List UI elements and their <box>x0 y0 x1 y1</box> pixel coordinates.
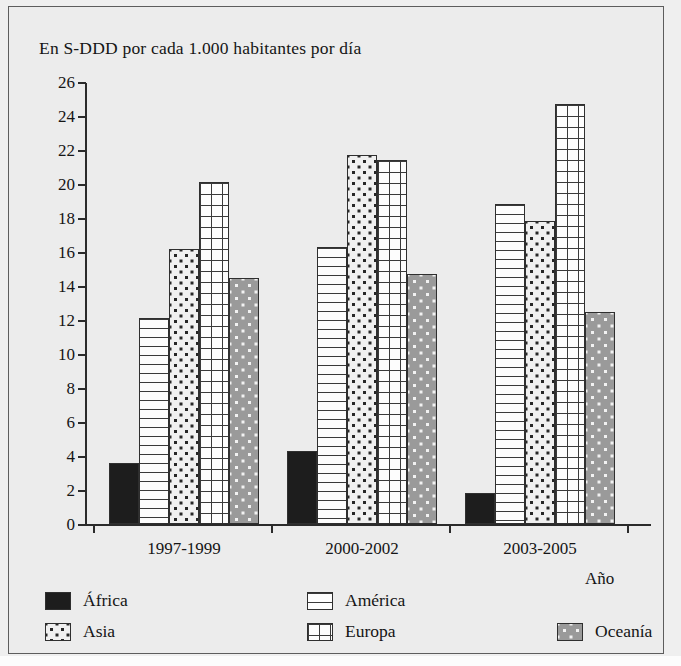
y-axis-tick <box>78 252 86 254</box>
x-axis-group-label: 2000-2002 <box>262 539 462 559</box>
x-axis-group-label: 1997-1999 <box>84 539 284 559</box>
bar-oceana-2003-2005 <box>585 312 615 525</box>
bar-oceana-2000-2002 <box>407 274 437 524</box>
y-axis-tick-label: 20 <box>37 176 75 193</box>
legend-swatch-icon <box>45 592 71 610</box>
x-axis-line <box>85 524 651 526</box>
figure-frame: En S-DDD por cada 1.000 habitantes por d… <box>8 6 664 654</box>
y-axis-tick <box>78 524 86 526</box>
y-axis-tick <box>78 218 86 220</box>
legend-label: Asia <box>83 621 115 642</box>
x-axis-group-label: 2003-2005 <box>440 539 640 559</box>
y-axis-tick <box>78 184 86 186</box>
y-axis-tick-label: 4 <box>37 448 75 465</box>
x-axis-tick <box>93 524 95 533</box>
legend-swatch-icon <box>307 623 333 641</box>
legend-item-oceana[interactable]: Oceanía <box>557 621 652 642</box>
scanned-page-background: En S-DDD por cada 1.000 habitantes por d… <box>0 0 681 666</box>
bar-europa-2000-2002 <box>377 160 407 524</box>
y-axis-tick-label: 26 <box>37 74 75 91</box>
y-axis-tick-label: 16 <box>37 244 75 261</box>
y-axis-tick <box>78 150 86 152</box>
y-axis-tick-label: 6 <box>37 414 75 431</box>
y-axis-tick-label: 18 <box>37 210 75 227</box>
y-axis-tick <box>78 388 86 390</box>
bar-asia-2000-2002 <box>347 155 377 524</box>
legend-swatch-icon <box>45 623 71 641</box>
legend-item-frica[interactable]: África <box>45 590 128 611</box>
legend-label: América <box>345 590 405 611</box>
y-axis-tick-label: 14 <box>37 278 75 295</box>
y-axis-tick <box>78 320 86 322</box>
chart-legend: ÁfricaAméricaAsiaEuropaOceanía <box>45 590 655 652</box>
y-axis-tick <box>78 82 86 84</box>
legend-swatch-icon <box>557 623 583 641</box>
y-axis-tick-label: 0 <box>37 516 75 533</box>
y-axis-tick <box>78 116 86 118</box>
bar-oceana-1997-1999 <box>229 278 259 525</box>
page-bottom-margin <box>0 656 681 666</box>
y-axis-tick-label: 8 <box>37 380 75 397</box>
bar-europa-1997-1999 <box>199 182 229 524</box>
y-axis-tick-label: 22 <box>37 142 75 159</box>
y-axis-tick <box>78 456 86 458</box>
y-axis-tick <box>78 354 86 356</box>
legend-swatch-icon <box>307 592 333 610</box>
legend-label: Oceanía <box>595 621 652 642</box>
plot-area: 02468101214161820222426 1997-19992000-20… <box>85 83 651 525</box>
x-axis-tick <box>271 524 273 533</box>
y-axis-tick-label: 10 <box>37 346 75 363</box>
bar-amrica-2000-2002 <box>317 247 347 524</box>
y-axis-tick-label: 24 <box>37 108 75 125</box>
legend-item-europa[interactable]: Europa <box>307 621 396 642</box>
y-axis-tick-label: 2 <box>37 482 75 499</box>
chart-title: En S-DDD por cada 1.000 habitantes por d… <box>39 38 361 59</box>
bar-amrica-1997-1999 <box>139 318 169 524</box>
y-axis-tick <box>78 422 86 424</box>
legend-item-asia[interactable]: Asia <box>45 621 115 642</box>
bar-frica-2003-2005 <box>465 493 495 524</box>
bar-europa-2003-2005 <box>555 104 585 524</box>
bar-frica-2000-2002 <box>287 451 317 524</box>
bar-asia-2003-2005 <box>525 221 555 524</box>
legend-item-amrica[interactable]: América <box>307 590 405 611</box>
bar-frica-1997-1999 <box>109 463 139 524</box>
y-axis-tick <box>78 286 86 288</box>
y-axis-tick-label: 12 <box>37 312 75 329</box>
bar-amrica-2003-2005 <box>495 204 525 524</box>
legend-label: África <box>83 590 128 611</box>
x-axis-tick <box>449 524 451 533</box>
legend-label: Europa <box>345 621 396 642</box>
x-axis-title: Año <box>585 569 614 589</box>
y-axis-tick <box>78 490 86 492</box>
bar-asia-1997-1999 <box>169 249 199 524</box>
x-axis-tick <box>627 524 629 533</box>
